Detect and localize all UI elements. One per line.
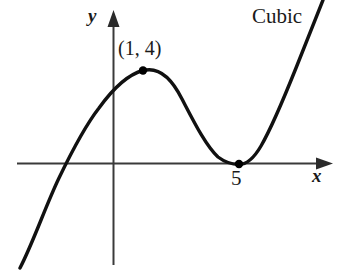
plot-canvas [0, 0, 341, 271]
y-axis-label: y [88, 6, 96, 25]
curve-name-label: Cubic [252, 6, 302, 27]
local-maximum-coordinate-label: (1, 4) [118, 38, 161, 58]
x-axis-label: x [312, 166, 322, 185]
double-root-tick-label: 5 [231, 168, 242, 189]
cubic-function-graph-figure: y x Cubic (1, 4) 5 [0, 0, 341, 271]
local-maximum-point-marker [139, 66, 147, 74]
y-axis-arrowhead-icon [108, 10, 120, 27]
cubic-curve [20, 0, 323, 268]
